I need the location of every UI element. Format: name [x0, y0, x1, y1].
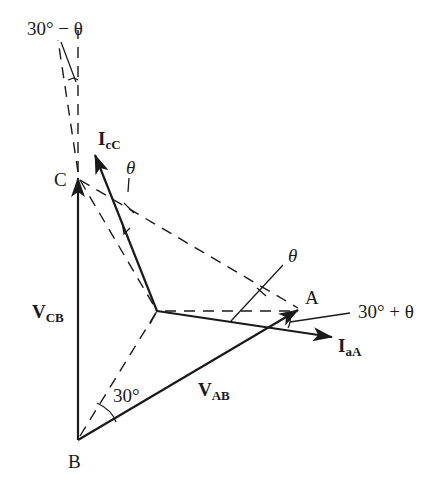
- icc-main: I: [98, 128, 105, 149]
- phasor-diagram: 30° − θ C A B θ θ 30° + θ 30° IcC VCB VA…: [0, 0, 441, 487]
- point-label-b: B: [68, 451, 81, 472]
- right-angle-reference-line: [290, 313, 350, 322]
- right-theta-line: [231, 265, 283, 321]
- vab-main: V: [198, 379, 212, 400]
- phasor-label-iaa: IaA: [338, 335, 362, 359]
- angle-label-30-plus-theta: 30° + θ: [358, 301, 414, 322]
- angle-label-theta-right: θ: [288, 245, 297, 266]
- iaa-phasor: [157, 311, 332, 337]
- angle-label-30-minus-theta: 30° − θ: [27, 18, 83, 39]
- vab-sub: AB: [212, 388, 230, 403]
- icc-sub: cC: [105, 137, 120, 152]
- c-to-neutral-dashed: [80, 180, 157, 311]
- angle-label-30: 30°: [113, 385, 140, 406]
- neutral-tick: [150, 311, 157, 324]
- vab-phasor: [78, 310, 298, 440]
- point-label-c: C: [54, 169, 67, 190]
- iaa-sub: aA: [345, 344, 362, 359]
- phasor-label-vab: VAB: [198, 379, 230, 403]
- construction-lines: [58, 30, 298, 436]
- point-label-a: A: [305, 287, 319, 308]
- vcb-main: V: [32, 301, 46, 322]
- angle-label-theta-upper: θ: [126, 157, 135, 178]
- phasor-label-icc: IcC: [98, 128, 121, 152]
- upper-theta-tick: [124, 203, 134, 213]
- labels: 30° − θ C A B θ θ 30° + θ 30° IcC VCB VA…: [27, 18, 414, 472]
- angle-arc-at-a: [288, 316, 290, 328]
- phasor-label-vcb: VCB: [32, 301, 64, 325]
- right-angle-mark-top: [68, 78, 78, 80]
- icc-phasor: [95, 155, 157, 311]
- vcb-sub: CB: [46, 310, 64, 325]
- iaa-main: I: [338, 335, 345, 356]
- upper-theta-marker-line: [128, 178, 129, 192]
